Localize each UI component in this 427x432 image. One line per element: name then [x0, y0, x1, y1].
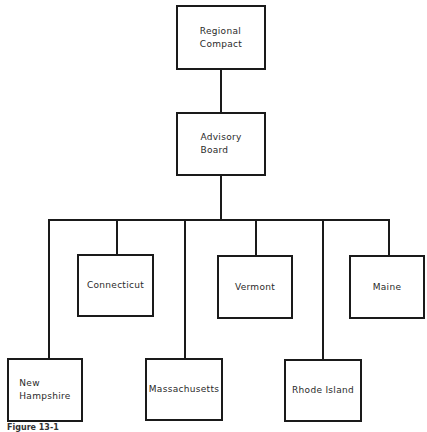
drop-maine — [388, 219, 390, 256]
node-connecticut: Connecticut — [77, 254, 154, 317]
node-label: New Hampshire — [19, 377, 70, 403]
figure-caption: Figure 13-1 — [7, 423, 59, 432]
connector-board-bus — [220, 175, 222, 220]
node-label: Regional Compact — [200, 25, 242, 51]
node-label: Advisory Board — [200, 131, 241, 157]
node-new-hampshire: New Hampshire — [7, 358, 83, 422]
connector-compact-board — [220, 69, 222, 113]
node-rhode-island: Rhode Island — [284, 359, 362, 422]
node-label: Massachusetts — [149, 383, 219, 396]
drop-massachusetts — [184, 219, 186, 359]
drop-rhode-island — [322, 219, 324, 360]
node-advisory-board: Advisory Board — [176, 112, 266, 176]
node-massachusetts: Massachusetts — [145, 358, 223, 421]
horizontal-bus — [48, 219, 389, 221]
drop-new-hampshire — [48, 219, 50, 359]
node-regional-compact: Regional Compact — [176, 5, 266, 70]
node-label: Vermont — [235, 281, 275, 294]
node-vermont: Vermont — [217, 255, 293, 319]
drop-vermont — [255, 219, 257, 256]
node-label: Rhode Island — [292, 384, 354, 397]
node-label: Maine — [373, 281, 402, 294]
drop-connecticut — [116, 219, 118, 255]
node-maine: Maine — [349, 255, 425, 319]
node-label: Connecticut — [87, 279, 144, 292]
